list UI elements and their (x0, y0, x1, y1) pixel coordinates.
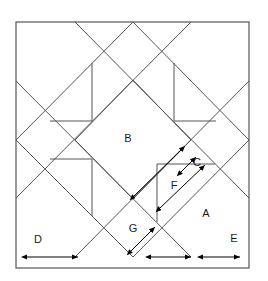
diagram-root: B C F A G D E (0, 0, 268, 281)
label-f: F (171, 179, 178, 191)
label-b: B (124, 132, 131, 144)
geometry-figure: B C F A G D E (0, 0, 268, 281)
dimension-arrow-f-edge (160, 165, 205, 208)
label-g: G (129, 222, 138, 234)
label-a: A (202, 207, 210, 219)
label-d: D (34, 233, 42, 245)
label-e: E (230, 232, 237, 244)
label-c: C (193, 156, 201, 168)
